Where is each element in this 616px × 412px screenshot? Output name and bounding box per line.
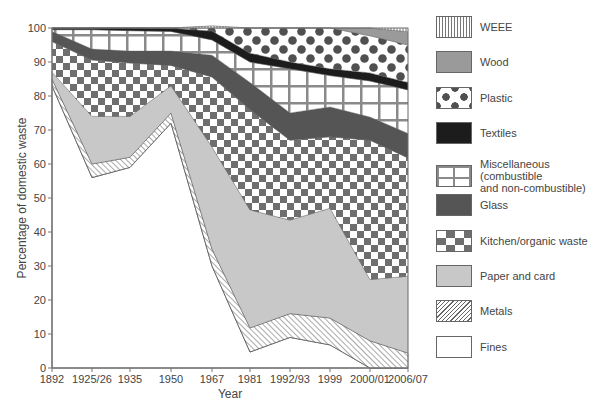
x-tick-label: 1935 xyxy=(118,373,142,385)
x-tick-label: 1892 xyxy=(40,373,64,385)
legend-item: Metals xyxy=(436,300,512,322)
legend-item: Kitchen/organic waste xyxy=(436,230,588,252)
y-tick-label: 70 xyxy=(34,124,46,136)
legend-item: Textiles xyxy=(436,122,517,144)
y-tick-label: 10 xyxy=(34,328,46,340)
x-tick-label: 1925/26 xyxy=(72,373,112,385)
y-tick-label: 100 xyxy=(28,22,46,34)
legend-swatch-dots xyxy=(436,87,472,109)
legend-label: Miscellaneous (combustible and non-combu… xyxy=(480,158,614,194)
x-tick-label: 1981 xyxy=(238,373,262,385)
y-tick-label: 80 xyxy=(34,90,46,102)
legend-label: Metals xyxy=(480,305,512,317)
legend-item: Plastic xyxy=(436,87,512,109)
plot-areas xyxy=(52,26,408,368)
legend-swatch-checker xyxy=(436,230,472,252)
legend-item: Fines xyxy=(436,336,507,358)
legend-label: Fines xyxy=(480,341,507,353)
legend-swatch-black xyxy=(436,122,472,144)
legend-item: Miscellaneous (combustible and non-combu… xyxy=(436,158,614,194)
x-axis-title: Year xyxy=(218,387,242,401)
x-tick-label: 1967 xyxy=(200,373,224,385)
y-tick-label: 60 xyxy=(34,158,46,170)
legend-swatch-blank xyxy=(436,336,472,358)
legend-swatch-light-grey xyxy=(436,265,472,287)
legend-label: Paper and card xyxy=(480,270,555,282)
legend-swatch-grid xyxy=(436,165,472,187)
y-tick-label: 30 xyxy=(34,260,46,272)
legend-item: Glass xyxy=(436,194,508,216)
legend-label: Textiles xyxy=(480,127,517,139)
x-tick-label: 1999 xyxy=(318,373,342,385)
y-tick-label: 40 xyxy=(34,226,46,238)
legend-label: Wood xyxy=(480,56,509,68)
legend-item: WEEE xyxy=(436,16,512,38)
legend-label: Kitchen/organic waste xyxy=(480,235,588,247)
legend-label: Plastic xyxy=(480,92,512,104)
x-tick-label: 2000/01 xyxy=(350,373,390,385)
stacked-area-chart: 010203040506070809010018921925/261935195… xyxy=(0,0,616,412)
y-tick-label: 50 xyxy=(34,192,46,204)
y-tick-label: 20 xyxy=(34,294,46,306)
legend-item: Paper and card xyxy=(436,265,555,287)
legend-label: WEEE xyxy=(480,21,512,33)
legend-item: Wood xyxy=(436,51,509,73)
legend-swatch-hatch xyxy=(436,300,472,322)
y-axis-title: Percentage of domestic waste xyxy=(15,117,29,278)
x-tick-label: 1992/93 xyxy=(270,373,310,385)
x-tick-label: 1950 xyxy=(159,373,183,385)
x-tick-label: 2006/07 xyxy=(388,373,428,385)
y-tick-label: 90 xyxy=(34,56,46,68)
legend-swatch-vertical-lines xyxy=(436,16,472,38)
legend-label: Glass xyxy=(480,199,508,211)
legend-swatch-dark-grey xyxy=(436,194,472,216)
legend-swatch-mid-grey xyxy=(436,51,472,73)
